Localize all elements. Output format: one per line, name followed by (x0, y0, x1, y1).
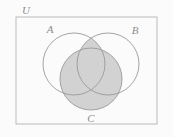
set-label-a: A (46, 23, 54, 35)
venn-diagram-canvas: U A B C (0, 0, 173, 137)
set-label-b: B (132, 24, 139, 36)
universe-label: U (22, 4, 31, 16)
venn-diagram-figure: U A B C (0, 0, 173, 137)
set-label-c: C (87, 112, 95, 124)
